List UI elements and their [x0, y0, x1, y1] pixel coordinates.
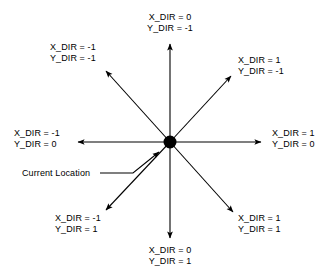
current-location-dot	[164, 136, 177, 149]
label-south: X_DIR = 0 Y_DIR = 1	[149, 245, 192, 267]
arrow-southwest	[106, 142, 170, 210]
arrow-northwest	[106, 71, 170, 142]
label-north-xdir: X_DIR = 0	[147, 12, 193, 23]
label-northwest: X_DIR = -1 Y_DIR = -1	[50, 42, 96, 64]
label-northeast-xdir: X_DIR = 1	[238, 55, 284, 66]
label-west-xdir: X_DIR = -1	[14, 128, 60, 139]
label-northwest-xdir: X_DIR = -1	[50, 42, 96, 53]
label-east-xdir: X_DIR = 1	[272, 128, 315, 139]
label-east: X_DIR = 1 Y_DIR = 0	[272, 128, 315, 150]
label-southwest-xdir: X_DIR = -1	[55, 213, 101, 224]
direction-vector-diagram: X_DIR = 0 Y_DIR = -1 X_DIR = -1 Y_DIR = …	[0, 0, 330, 279]
label-northeast-ydir: Y_DIR = -1	[238, 66, 284, 77]
current-location-label: Current Location	[22, 168, 90, 179]
label-north-ydir: Y_DIR = -1	[147, 23, 193, 34]
label-northeast: X_DIR = 1 Y_DIR = -1	[238, 55, 284, 77]
label-west-ydir: Y_DIR = 0	[14, 139, 60, 150]
arrow-southeast	[170, 142, 233, 212]
label-northwest-ydir: Y_DIR = -1	[50, 53, 96, 64]
label-south-xdir: X_DIR = 0	[149, 245, 192, 256]
label-southeast: X_DIR = 1 Y_DIR = 1	[238, 213, 281, 235]
arrow-northeast	[170, 76, 231, 142]
label-west: X_DIR = -1 Y_DIR = 0	[14, 128, 60, 150]
label-east-ydir: Y_DIR = 0	[272, 139, 315, 150]
label-southeast-xdir: X_DIR = 1	[238, 213, 281, 224]
label-north: X_DIR = 0 Y_DIR = -1	[147, 12, 193, 34]
label-south-ydir: Y_DIR = 1	[149, 256, 192, 267]
label-southwest-ydir: Y_DIR = 1	[55, 224, 101, 235]
label-southeast-ydir: Y_DIR = 1	[238, 224, 281, 235]
label-southwest: X_DIR = -1 Y_DIR = 1	[55, 213, 101, 235]
